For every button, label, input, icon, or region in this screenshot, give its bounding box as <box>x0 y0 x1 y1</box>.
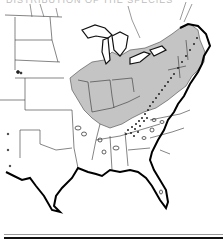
canada-lines <box>30 2 192 38</box>
frame-rule-thin <box>4 234 223 235</box>
frame-rule-thick <box>4 237 223 239</box>
range-map <box>0 0 223 239</box>
